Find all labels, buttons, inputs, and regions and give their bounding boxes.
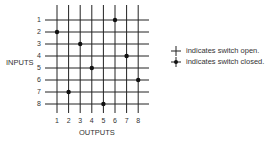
closed-switch-dot <box>66 90 70 94</box>
input-label: 2 <box>31 28 41 36</box>
closed-switch-dot <box>136 78 140 82</box>
output-label: 6 <box>110 117 120 125</box>
input-label: 5 <box>31 64 41 72</box>
input-label: 8 <box>31 100 41 108</box>
legend-closed-icon <box>170 56 182 68</box>
closed-switch-dot <box>113 18 117 22</box>
closed-switch-dot <box>78 42 82 46</box>
output-label: 3 <box>75 117 85 125</box>
output-label: 8 <box>133 117 143 125</box>
closed-switch-dot <box>101 102 105 106</box>
output-label: 4 <box>87 117 97 125</box>
closed-switch-dot <box>55 30 59 34</box>
outputs-axis-label: OUTPUTS <box>79 128 115 137</box>
output-label: 7 <box>122 117 132 125</box>
legend-closed-text: indicates switch closed. <box>186 57 264 66</box>
closed-switch-dot <box>90 66 94 70</box>
legend-open-text: indicates switch open. <box>186 46 259 55</box>
closed-switch-dot <box>124 54 128 58</box>
inputs-axis-label: INPUTS <box>6 58 34 67</box>
input-label: 1 <box>31 16 41 24</box>
input-label: 3 <box>31 40 41 48</box>
input-label: 4 <box>31 52 41 60</box>
input-label: 7 <box>31 88 41 96</box>
output-label: 5 <box>98 117 108 125</box>
output-label: 1 <box>52 117 62 125</box>
input-label: 6 <box>31 76 41 84</box>
output-label: 2 <box>64 117 74 125</box>
